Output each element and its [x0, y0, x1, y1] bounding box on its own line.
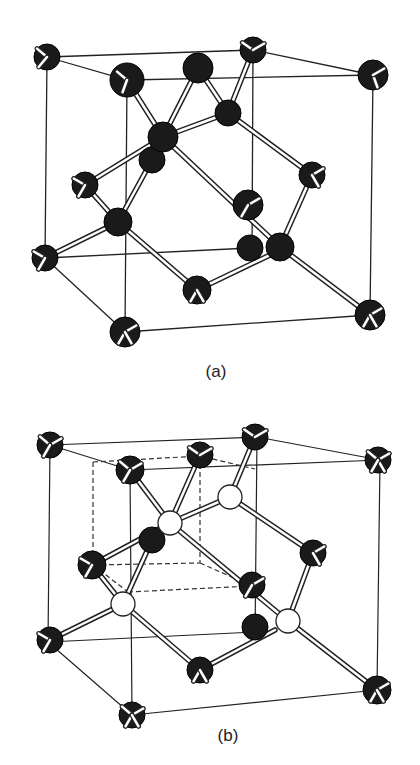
atoms-b-dark: [37, 424, 391, 728]
crystal-diagram: [0, 0, 420, 765]
figure-a: [32, 37, 388, 347]
caption-b: (b): [198, 726, 258, 746]
figure-b: [37, 424, 391, 728]
caption-a: (a): [186, 362, 246, 382]
